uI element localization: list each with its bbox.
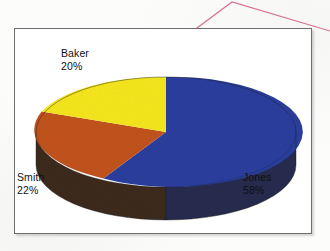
- slice-label-smith-name: Smith: [17, 171, 44, 184]
- slice-label-baker: Baker 20%: [61, 47, 89, 72]
- slice-label-jones-value: 58%: [243, 184, 272, 197]
- chart-card: Baker 20% Smith 22% Jones 58%: [14, 28, 312, 234]
- slice-label-smith-value: 22%: [17, 184, 44, 197]
- scan-surface: Baker 20% Smith 22% Jones 58%: [0, 0, 330, 251]
- slice-label-smith: Smith 22%: [17, 171, 44, 196]
- slice-label-baker-value: 20%: [61, 60, 89, 73]
- slice-label-baker-name: Baker: [61, 47, 89, 60]
- pie-chart-graphic: [15, 29, 313, 235]
- slice-label-jones: Jones 58%: [243, 171, 272, 196]
- slice-label-jones-name: Jones: [243, 171, 272, 184]
